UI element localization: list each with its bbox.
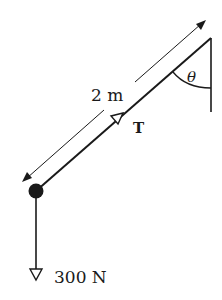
dimension-arrowhead-up-icon xyxy=(196,20,206,30)
tension-arrowhead-icon xyxy=(111,113,123,124)
dimension-line-lower xyxy=(27,110,104,178)
tension-label: T xyxy=(133,119,145,137)
length-label: 2 m xyxy=(91,85,123,105)
weight-label: 300 N xyxy=(54,267,107,287)
weight-arrowhead-icon xyxy=(30,269,42,280)
rope xyxy=(36,38,211,191)
dimension-arrowhead-down-icon xyxy=(22,172,32,182)
angle-label: θ xyxy=(187,68,196,86)
force-diagram: θ 2 m T 300 N xyxy=(0,0,222,300)
